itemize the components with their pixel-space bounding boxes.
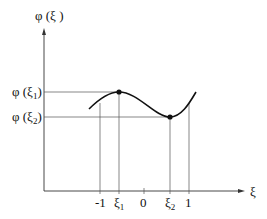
diagram-canvas: φ (ξ ) ξ φ (ξ1) φ (ξ2) -1 ξ1 0 ξ2 1	[0, 0, 267, 219]
function-curve	[89, 92, 196, 117]
y-tick-phi-xi2: φ (ξ2)	[12, 109, 42, 126]
x-axis-arrow-icon	[238, 189, 245, 193]
x-tick-xi2: ξ2	[165, 195, 175, 212]
x-axis-label: ξ	[250, 184, 256, 199]
y-axis-label: φ (ξ )	[35, 8, 63, 23]
y-axis-arrow-icon	[42, 28, 46, 35]
y-tick-phi-xi1: φ (ξ1)	[12, 84, 42, 101]
function-diagram: φ (ξ ) ξ φ (ξ1) φ (ξ2) -1 ξ1 0 ξ2 1	[0, 0, 267, 219]
x-tick-zero: 0	[140, 195, 147, 210]
max-point	[116, 89, 121, 94]
x-tick-minus-one: -1	[95, 195, 106, 210]
x-tick-xi1: ξ1	[114, 195, 124, 212]
x-tick-one: 1	[185, 195, 192, 210]
min-point	[167, 114, 172, 119]
